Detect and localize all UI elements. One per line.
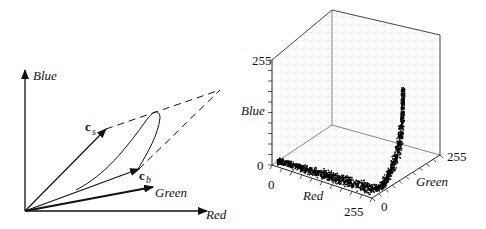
scatter-point [344,182,345,183]
scatter-point [311,169,312,170]
green-min-tick: 0 [381,199,388,214]
scatter-point [386,177,387,178]
scatter-point [404,120,405,121]
scatter-point [392,158,393,159]
scatter-point [314,174,315,175]
scatter-point [394,169,395,170]
specular-vector-label: c s [85,119,96,137]
scatter-point [307,169,308,170]
scatter-point [333,180,334,181]
scatter-point [357,186,358,187]
scatter-point [398,151,399,152]
scatter-point [387,181,388,182]
scatter-point [329,176,330,177]
scatter-point [280,163,281,164]
scatter-point [371,184,372,185]
scatter-point [395,156,396,157]
scatter-point [380,184,381,185]
scatter-point [402,135,403,136]
scatter-point [343,184,344,185]
scatter-point [371,191,372,192]
scatter-point [320,175,321,176]
red-axis-label: Red [205,207,227,222]
scatter-point [331,170,332,171]
scatter-point [384,174,385,175]
scatter-point [404,103,405,104]
scatter-point [401,123,402,124]
scatter-point [334,180,335,181]
scatter-point [398,141,399,142]
scatter-point [341,175,342,176]
scatter-point [357,181,358,182]
scatter-point [400,134,401,135]
scatter-point [388,178,389,179]
scatter-point [361,180,362,181]
scatter-point [364,190,365,191]
scatter-point [284,163,285,164]
scatter-point [348,181,349,182]
scatter-point [289,164,290,165]
scatter-point [402,117,403,118]
scatter-point [339,176,340,177]
scatter-point [363,180,364,181]
scatter-point [390,173,391,174]
scatter-point [403,91,404,92]
scatter-point [300,164,301,165]
scatter-point [350,180,351,181]
scatter-point [397,149,398,150]
green-tick [426,164,429,167]
scatter-point [346,175,347,176]
scatter-point [291,167,292,168]
green-tick [386,189,389,192]
scatter-point [379,182,380,183]
scatter-point [401,148,402,149]
scatter-point [314,167,315,168]
red-max-tick: 255 [344,204,364,219]
scatter-point [290,162,291,163]
scatter-point [284,162,285,163]
scatter-point [288,162,289,163]
green-tick [399,181,402,184]
scatter-point [305,173,306,174]
scatter-point [375,186,376,187]
scatter-point [366,185,367,186]
scatter-point [396,167,397,168]
scatter-point [390,160,391,161]
scatter-point [404,97,405,98]
scatter-point [313,171,314,172]
scatter-point [318,172,319,173]
green-axis-label: Green [155,185,187,200]
scatter-point [340,180,341,181]
green-tick [379,194,382,197]
scatter-point [396,158,397,159]
scatter-point [371,190,372,191]
scatter-point [337,177,338,178]
scatter-point [336,173,337,174]
scatter-point [305,166,306,167]
scatter-point [390,176,391,177]
scatter-point [353,184,354,185]
scatter-point [310,167,311,168]
scatter-point [355,180,356,181]
scatter-point [295,165,296,166]
scatter-point [328,178,329,179]
scatter-point [391,171,392,172]
scatter-point [302,170,303,171]
scatter-point [315,171,316,172]
scatter-point [394,153,395,154]
green-tick [392,185,395,188]
scatter-point [344,186,345,187]
scatter-point [346,184,347,185]
scatter-point [370,190,371,191]
scatter-point [401,128,402,129]
scatter-point [401,141,402,142]
scatter-point [398,126,399,127]
scatter-point [404,105,405,106]
figure-canvas: Blue Green Red c s c b 255 0 Blue 0 Red [0,0,486,229]
scatter-point [395,147,396,148]
scatter-point [385,187,386,188]
red-min-tick: 0 [268,177,275,192]
scatter-point [358,180,359,181]
scatter-point [401,126,402,127]
scatter-point [305,170,306,171]
